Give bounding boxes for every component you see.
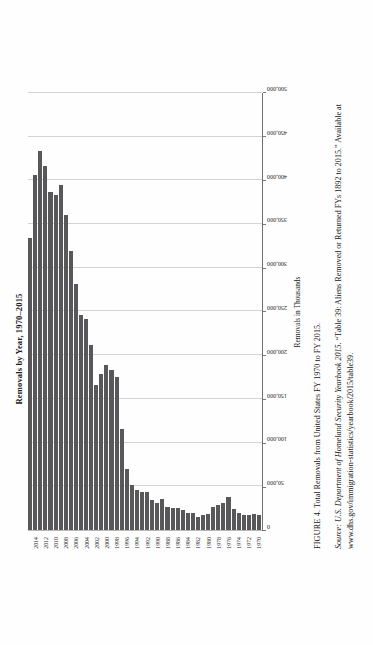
bar bbox=[237, 513, 241, 530]
bar-fill bbox=[176, 508, 180, 530]
bar-fill bbox=[43, 166, 47, 530]
bar bbox=[216, 505, 220, 530]
bar-fill bbox=[59, 185, 63, 530]
x-axis-tick-label: 200,000 bbox=[267, 349, 287, 356]
bar bbox=[38, 151, 42, 530]
bar bbox=[84, 319, 88, 530]
bar-fill bbox=[28, 238, 32, 530]
bar bbox=[109, 370, 113, 530]
y-axis-tick-label: 1974 bbox=[236, 537, 242, 549]
figure-number: FIGURE 4. bbox=[313, 510, 322, 549]
bar bbox=[150, 500, 154, 530]
bar bbox=[191, 513, 195, 530]
bar-fill bbox=[206, 514, 210, 530]
bar-fill bbox=[145, 492, 149, 530]
y-axis-tick-label: 1998 bbox=[114, 537, 120, 549]
y-axis-tick-label: 2010 bbox=[53, 537, 59, 549]
y-axis-tick-label: 1984 bbox=[185, 537, 191, 549]
y-axis-tick-label: 1982 bbox=[195, 537, 201, 549]
bar bbox=[226, 497, 230, 530]
bar-fill bbox=[216, 505, 220, 530]
bar bbox=[120, 430, 124, 531]
bar-fill bbox=[48, 192, 52, 530]
bar-fill bbox=[99, 374, 103, 530]
bar bbox=[252, 514, 256, 530]
bar bbox=[221, 503, 225, 530]
bar bbox=[160, 499, 164, 530]
bar-fill bbox=[84, 319, 88, 530]
bar-fill bbox=[232, 509, 236, 530]
source-line: Source: U.S. Department of Homeland Secu… bbox=[333, 79, 357, 549]
bar-fill bbox=[252, 514, 256, 530]
figure-caption-text: Total Removals from United States FY 197… bbox=[313, 323, 322, 508]
x-axis-tick-label: 50,000 bbox=[267, 480, 284, 487]
bar bbox=[130, 485, 134, 530]
x-axis-title: Removals in Thousands bbox=[293, 93, 302, 531]
bar bbox=[99, 374, 103, 530]
x-axis-tick-label: 450,000 bbox=[267, 130, 287, 137]
y-axis-tick-label: 2006 bbox=[73, 537, 79, 549]
bar-fill bbox=[150, 500, 154, 530]
y-axis-tick-label: 1992 bbox=[145, 537, 151, 549]
bar bbox=[257, 515, 261, 530]
bar bbox=[94, 385, 98, 530]
x-axis-tick bbox=[263, 268, 266, 269]
figure-caption-line: FIGURE 4. Total Removals from United Sta… bbox=[312, 79, 324, 549]
bar-fill bbox=[196, 517, 200, 530]
bar-fill bbox=[171, 508, 175, 530]
x-axis-tick-label: 100,000 bbox=[267, 436, 287, 443]
bar-fill bbox=[242, 515, 246, 530]
x-axis-tick-label: 0 bbox=[267, 524, 270, 531]
bar bbox=[69, 251, 73, 530]
bar-fill bbox=[89, 345, 93, 530]
bar bbox=[247, 515, 251, 530]
bar bbox=[33, 175, 37, 530]
bar bbox=[186, 513, 190, 530]
bar bbox=[28, 238, 32, 530]
bar-fill bbox=[109, 370, 113, 530]
bar-series bbox=[28, 93, 262, 530]
x-axis-tick bbox=[263, 93, 266, 94]
bar-fill bbox=[135, 490, 139, 530]
x-axis-tick bbox=[263, 312, 266, 313]
bar-fill bbox=[140, 492, 144, 530]
bar bbox=[115, 377, 119, 530]
bar bbox=[59, 185, 63, 530]
bar bbox=[176, 508, 180, 530]
bar-fill bbox=[257, 515, 261, 530]
bar-fill bbox=[237, 513, 241, 530]
y-axis-tick-label: 2002 bbox=[94, 537, 100, 549]
bar-fill bbox=[120, 430, 124, 531]
bar-fill bbox=[155, 503, 159, 530]
bar bbox=[54, 195, 58, 530]
x-axis-tick bbox=[263, 180, 266, 181]
bar bbox=[79, 315, 83, 530]
bar-fill bbox=[181, 510, 185, 530]
bar-fill bbox=[74, 284, 78, 530]
y-axis-tick-label: 2004 bbox=[84, 537, 90, 549]
y-axis-tick-label: 2012 bbox=[43, 537, 49, 549]
bar bbox=[43, 166, 47, 530]
y-axis-tick-label: 1978 bbox=[216, 537, 222, 549]
bar bbox=[74, 284, 78, 530]
bar-fill bbox=[191, 513, 195, 530]
bar-fill bbox=[38, 151, 42, 530]
y-axis-tick-label: 1986 bbox=[175, 537, 181, 549]
bar-fill bbox=[94, 385, 98, 530]
bar bbox=[64, 215, 68, 530]
bar-fill bbox=[186, 513, 190, 530]
x-axis-tick bbox=[263, 224, 266, 225]
bar bbox=[145, 492, 149, 530]
bar-fill bbox=[115, 377, 119, 530]
x-axis-tick-label: 150,000 bbox=[267, 393, 287, 400]
y-axis-tick-label: 2000 bbox=[104, 537, 110, 549]
bar-fill bbox=[247, 515, 251, 530]
x-axis-tick bbox=[263, 136, 266, 137]
bar bbox=[125, 469, 129, 530]
y-axis-tick-labels: 1970197219741976197819801982198419861988… bbox=[28, 531, 262, 605]
y-axis-tick-label: 2008 bbox=[63, 537, 69, 549]
bar-fill bbox=[125, 469, 129, 530]
y-axis-tick-label: 1980 bbox=[206, 537, 212, 549]
plot-area bbox=[28, 93, 262, 531]
bar-fill bbox=[226, 497, 230, 530]
